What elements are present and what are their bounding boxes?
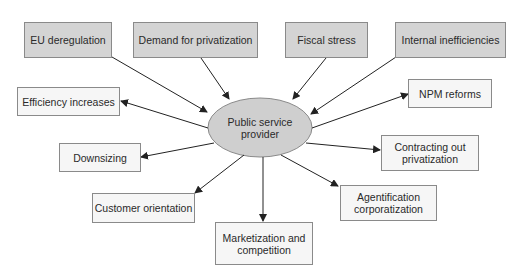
cause-label: Demand for privatization (139, 34, 253, 46)
effect-label: Efficiency increases (22, 96, 115, 108)
effect-line-2: privatization (402, 153, 458, 165)
arrow-demand-for-privatization (201, 58, 229, 99)
effect-downsizing: Downsizing (59, 143, 141, 172)
cause-internal-inefficiencies: Internal inefficiencies (395, 22, 506, 58)
effect-line-1: Agentification (357, 191, 420, 203)
cause-label: EU deregulation (30, 34, 105, 46)
arrow-npm-reforms (312, 94, 408, 128)
center-node-label: Public serviceprovider (208, 98, 312, 157)
effect-efficiency-increases: Efficiency increases (17, 87, 120, 116)
effect-label: Downsizing (73, 152, 127, 164)
effect-contracting-out-privatization: Contracting outprivatization (381, 135, 479, 171)
cause-fiscal-stress: Fiscal stress (285, 22, 368, 58)
effect-customer-orientation: Customer orientation (92, 193, 195, 223)
effect-npm-reforms: NPM reforms (408, 79, 492, 108)
effect-label: Customer orientation (95, 202, 192, 214)
arrow-downsizing (141, 143, 214, 157)
effect-line-1: Marketization and (223, 232, 306, 244)
cause-label: Fiscal stress (297, 34, 355, 46)
effect-line-2: competition (237, 244, 291, 256)
arrow-agentification (281, 155, 338, 186)
effect-label: NPM reforms (419, 88, 481, 100)
effect-line-2: corporatization (354, 203, 423, 215)
arrow-internal-inefficiencies (311, 57, 396, 114)
arrow-contracting-out (306, 143, 380, 150)
cause-label: Internal inefficiencies (402, 34, 500, 46)
cause-demand-for-privatization: Demand for privatization (133, 22, 258, 58)
effect-line-1: Contracting out (394, 141, 465, 153)
center-line-2: provider (241, 128, 279, 140)
effect-marketization-and-competition: Marketization andcompetition (215, 222, 313, 265)
arrow-customer-orientation (195, 155, 244, 193)
center-line-1: Public service (228, 116, 293, 128)
arrow-eu-deregulation (112, 57, 207, 112)
cause-eu-deregulation: EU deregulation (24, 22, 112, 58)
effect-agentification-corporatization: Agentificationcorporatization (340, 185, 437, 221)
causes-effects-diagram: EU deregulation Demand for privatization… (0, 0, 520, 276)
arrow-fiscal-stress (293, 58, 326, 99)
